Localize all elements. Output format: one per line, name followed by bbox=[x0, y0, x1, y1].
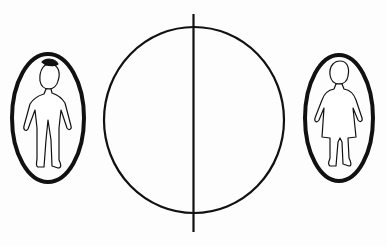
female-figure-group bbox=[305, 55, 373, 181]
male-figure-group bbox=[12, 54, 84, 182]
diagram-canvas bbox=[0, 0, 387, 246]
male-figure-icon bbox=[24, 59, 71, 168]
female-figure-icon bbox=[315, 61, 362, 166]
divided-circle-group bbox=[104, 14, 284, 232]
